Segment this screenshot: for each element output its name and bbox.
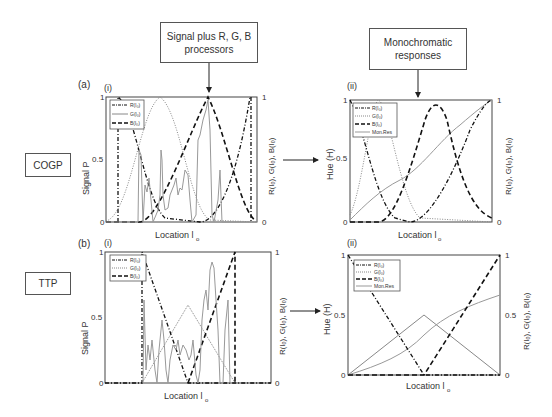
svg-text:0: 0	[505, 371, 510, 380]
ylabel-right-a-ii: R(l₀), G(l₀), B(l₀)	[504, 137, 513, 195]
svg-text:R(l₀): R(l₀)	[130, 257, 140, 263]
svg-text:1: 1	[497, 96, 502, 105]
ylabel-a-i: Signal P	[81, 161, 91, 195]
svg-text:B(l₀): B(l₀)	[372, 121, 382, 127]
svg-text:0: 0	[343, 218, 348, 227]
svg-text:0.5: 0.5	[505, 311, 517, 320]
svg-text:o: o	[447, 387, 451, 393]
svg-text:1: 1	[100, 93, 105, 102]
legend-g: G(l₀)	[130, 111, 141, 117]
ylabel-right-a-i: R(l₀), G(l₀), B(l₀)	[267, 137, 276, 195]
svg-text:Mon.Res: Mon.Res	[374, 283, 395, 289]
svg-text:G(l₀): G(l₀)	[130, 265, 141, 271]
svg-text:0: 0	[497, 218, 502, 227]
xlabel-a-i: Location l	[155, 230, 194, 240]
svg-text:B(l₀): B(l₀)	[130, 273, 140, 279]
svg-text:0.5: 0.5	[336, 154, 348, 163]
svg-text:1: 1	[99, 248, 104, 257]
svg-text:0: 0	[100, 218, 105, 227]
legend-b: B(l₀)	[130, 120, 140, 126]
svg-text:R(l₀): R(l₀)	[374, 262, 384, 268]
chart-a-ii: R(l₀) G(l₀) B(l₀) Mon.Res 1 0.5 0 1 0 Lo…	[325, 96, 513, 242]
svg-text:Mon.Res: Mon.Res	[372, 129, 393, 135]
svg-text:0: 0	[275, 379, 280, 388]
xlabel-b-ii: Location l	[406, 381, 445, 391]
ylabel-right-b-i: R(l₀), G(l₀), B(l₀)	[278, 297, 287, 355]
svg-text:o: o	[438, 236, 442, 242]
svg-text:G(l₀): G(l₀)	[374, 269, 385, 275]
svg-text:1: 1	[341, 251, 346, 260]
svg-text:1: 1	[343, 96, 348, 105]
svg-text:o: o	[196, 236, 200, 242]
xlabel-b-i: Location l	[164, 391, 203, 401]
svg-text:0: 0	[99, 379, 104, 388]
svg-text:1: 1	[262, 93, 267, 102]
ylabel-b-i: Signal P	[80, 321, 90, 355]
svg-text:0: 0	[341, 371, 346, 380]
ylabel-a-ii: Hue (H)	[325, 148, 335, 180]
chart-a-i: R(l₀) G(l₀) B(l₀) 1 0.5 0 1 0 Location l…	[81, 93, 276, 242]
svg-text:0.5: 0.5	[334, 311, 346, 320]
svg-text:G(l₀): G(l₀)	[372, 113, 383, 119]
svg-text:0.5: 0.5	[92, 155, 104, 164]
svg-text:1: 1	[275, 248, 280, 257]
svg-text:B(l₀): B(l₀)	[374, 276, 384, 282]
xlabel-a-ii: Location l	[398, 230, 437, 240]
chart-b-ii: R(l₀) G(l₀) B(l₀) Mon.Res 1 0.5 0 1 0.5 …	[322, 251, 531, 393]
legend-r: R(l₀)	[130, 102, 140, 108]
svg-text:R(l₀): R(l₀)	[372, 105, 382, 111]
chart-b-i: R(l₀) G(l₀) B(l₀) 1 0.5 0 1 0 Location l…	[80, 248, 287, 403]
ylabel-b-ii: Hue (H)	[322, 303, 332, 335]
svg-text:o: o	[205, 397, 209, 403]
ylabel-right-b-ii: R(l₀), G(l₀), B(l₀)	[522, 292, 531, 350]
figure-canvas: R(l₀) G(l₀) B(l₀) 1 0.5 0 1 0 Location l…	[0, 0, 552, 417]
svg-text:1: 1	[505, 251, 510, 260]
svg-text:0.5: 0.5	[91, 313, 103, 322]
svg-text:0: 0	[262, 218, 267, 227]
